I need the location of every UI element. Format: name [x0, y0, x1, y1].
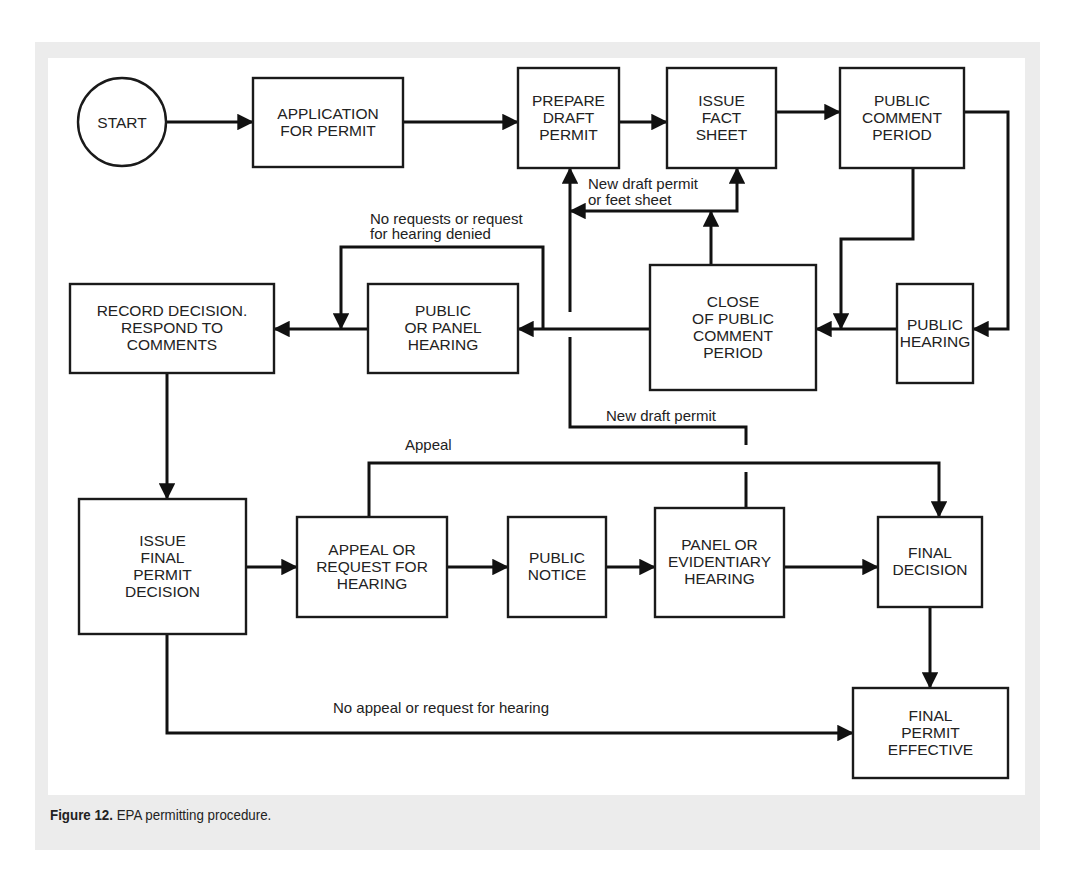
node-label-line: OF PUBLIC: [692, 310, 774, 327]
node-label-line: APPLICATION: [277, 105, 378, 122]
label-new-draft-permit: New draft permit: [606, 407, 717, 424]
node-label-line: FACT: [702, 109, 742, 126]
node-label: START: [97, 114, 147, 131]
label-appeal: Appeal: [405, 436, 452, 453]
node-public-notice: PUBLICNOTICE: [508, 517, 606, 617]
node-label-line: PANEL OR: [681, 536, 758, 553]
node-label-line: APPEAL OR: [328, 541, 415, 558]
node-label-line: DRAFT: [543, 109, 595, 126]
connector-branch-to-fact-sheet: [711, 168, 737, 211]
node-label-line: ISSUE: [139, 532, 186, 549]
node-label-line: CLOSE: [707, 293, 760, 310]
process-node-layer: STARTAPPLICATIONFOR PERMITPREPAREDRAFTPE…: [70, 68, 1008, 778]
node-issue-fact-sheet: ISSUEFACTSHEET: [667, 68, 776, 168]
node-label-line: NOTICE: [528, 566, 587, 583]
node-panel-or-evidentiary: PANEL OREVIDENTIARYHEARING: [655, 508, 784, 617]
node-close-comment-period: CLOSEOF PUBLICCOMMENTPERIOD: [650, 265, 816, 390]
node-label-line: PUBLIC: [874, 92, 930, 109]
node-label-line: HEARING: [337, 575, 408, 592]
node-label-line: PERIOD: [703, 344, 762, 361]
node-label-line: FINAL: [909, 707, 953, 724]
node-label-line: RESPOND TO: [121, 319, 223, 336]
figure-number: Figure 12.: [50, 806, 113, 823]
label-no-appeal: No appeal or request for hearing: [333, 699, 549, 716]
node-label-line: PUBLIC: [907, 316, 963, 333]
label-no-requests: No requests or requestfor hearing denied: [370, 210, 523, 242]
edge-label-line: for hearing denied: [370, 225, 491, 242]
node-label-line: PERMIT: [539, 126, 598, 143]
node-label-line: FINAL: [908, 544, 952, 561]
figure-caption-text: EPA permitting procedure.: [113, 806, 271, 823]
node-label-line: HEARING: [684, 570, 755, 587]
node-label-line: PUBLIC: [529, 549, 585, 566]
node-public-comment-period: PUBLICCOMMENTPERIOD: [840, 68, 964, 168]
node-start: START: [78, 78, 166, 166]
node-label-line: PERIOD: [872, 126, 931, 143]
node-label-line: EFFECTIVE: [888, 741, 973, 758]
edge-label-line: New draft permit: [606, 407, 717, 424]
node-application: APPLICATIONFOR PERMIT: [253, 78, 403, 167]
node-label-line: RECORD DECISION.: [97, 302, 248, 319]
node-appeal-or-request: APPEAL ORREQUEST FORHEARING: [297, 517, 447, 617]
figure-caption: Figure 12. EPA permitting procedure.: [50, 806, 271, 824]
connector-no-appeal-to-effective: [167, 634, 853, 733]
edge-label-line: No appeal or request for hearing: [333, 699, 549, 716]
node-record-decision: RECORD DECISION.RESPOND TOCOMMENTS: [70, 284, 274, 373]
node-label-line: SHEET: [696, 126, 748, 143]
node-issue-final-decision: ISSUEFINALPERMITDECISION: [79, 499, 246, 634]
node-label-line: PERMIT: [901, 724, 960, 741]
node-label-line: COMMENTS: [127, 336, 217, 353]
node-prepare-draft: PREPAREDRAFTPERMIT: [518, 68, 619, 168]
node-label-line: DECISION: [893, 561, 968, 578]
node-label-line: OR PANEL: [404, 319, 482, 336]
node-label-line: HEARING: [900, 333, 971, 350]
node-label-line: COMMENT: [862, 109, 943, 126]
node-label-line: COMMENT: [693, 327, 774, 344]
node-label-line: HEARING: [408, 336, 479, 353]
permitting-flowchart: STARTAPPLICATIONFOR PERMITPREPAREDRAFTPE…: [0, 0, 1073, 876]
node-label-line: FOR PERMIT: [280, 122, 376, 139]
edge-label-line: Appeal: [405, 436, 452, 453]
edge-label-layer: New draft permitor feet sheetNo requests…: [333, 175, 717, 716]
label-new-draft-or-fact-sheet: New draft permitor feet sheet: [588, 175, 699, 208]
node-label-line: DECISION: [125, 583, 200, 600]
connector-layer: [166, 112, 1008, 733]
edge-label-line: New draft permit: [588, 175, 699, 192]
node-label-line: PERMIT: [133, 566, 192, 583]
node-label-line: PREPARE: [532, 92, 605, 109]
node-label-line: REQUEST FOR: [316, 558, 428, 575]
node-final-permit-effective: FINALPERMITEFFECTIVE: [853, 688, 1008, 778]
node-label-line: EVIDENTIARY: [668, 553, 771, 570]
node-label-line: ISSUE: [698, 92, 745, 109]
node-public-hearing: PUBLICHEARING: [897, 284, 973, 383]
node-final-decision: FINALDECISION: [878, 517, 982, 607]
edge-label-line: or feet sheet: [588, 191, 672, 208]
node-public-or-panel-hearing: PUBLICOR PANELHEARING: [368, 284, 518, 373]
node-label-line: PUBLIC: [415, 302, 471, 319]
node-label-line: FINAL: [141, 549, 185, 566]
